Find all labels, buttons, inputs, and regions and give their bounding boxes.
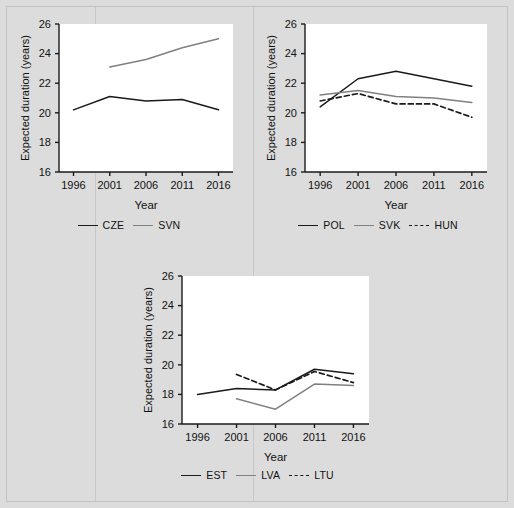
- legend-label-pol: POL: [323, 219, 345, 231]
- legend-entry-lva[interactable]: LVA: [236, 469, 280, 481]
- legend-label-hun: HUN: [434, 219, 457, 231]
- figure-canvas: 16182022242619962001200620112016YearExpe…: [0, 0, 514, 508]
- plot-area-3: 16182022242619962001200620112016YearExpe…: [135, 262, 380, 467]
- plot-background: [182, 276, 369, 424]
- legend-entry-pol[interactable]: POL: [298, 219, 345, 231]
- legend-entry-ltu[interactable]: LTU: [289, 469, 334, 481]
- legend-label-est: EST: [206, 469, 227, 481]
- legend-entry-est[interactable]: EST: [181, 469, 227, 481]
- x-tick-label: 2011: [422, 179, 446, 191]
- x-tick-label: 2011: [303, 431, 327, 443]
- y-tick-label: 20: [39, 107, 51, 119]
- y-tick-label: 26: [162, 270, 174, 282]
- legend-2: POL SVK HUN: [258, 215, 498, 235]
- legend-label-ltu: LTU: [314, 469, 334, 481]
- x-tick-label: 1996: [185, 431, 209, 443]
- legend-entry-svn[interactable]: SVN: [133, 219, 180, 231]
- y-tick-label: 24: [285, 47, 297, 59]
- plot-area-1: 16182022242619962001200620112016YearExpe…: [14, 10, 244, 215]
- x-tick-label: 2001: [98, 179, 122, 191]
- x-axis-label: Year: [264, 451, 287, 463]
- y-axis-label: Expected duration (years): [19, 35, 31, 161]
- legend-swatch-ltu: [289, 475, 309, 476]
- y-tick-label: 16: [162, 418, 174, 430]
- y-tick-label: 18: [162, 388, 174, 400]
- y-tick-label: 20: [162, 359, 174, 371]
- x-tick-label: 1996: [308, 179, 332, 191]
- legend-swatch-est: [181, 475, 201, 476]
- plot-area-2: 16182022242619962001200620112016YearExpe…: [258, 10, 498, 215]
- legend-swatch-pol: [298, 225, 318, 226]
- legend-label-svn: SVN: [158, 219, 180, 231]
- x-tick-label: 2001: [224, 431, 248, 443]
- legend-label-svk: SVK: [379, 219, 401, 231]
- legend-swatch-lva: [236, 475, 256, 476]
- x-tick-label: 2016: [341, 431, 365, 443]
- x-tick-label: 2016: [206, 179, 230, 191]
- y-tick-label: 22: [39, 77, 51, 89]
- x-axis-label: Year: [134, 199, 157, 211]
- y-tick-label: 16: [285, 166, 297, 178]
- legend-swatch-svk: [354, 225, 374, 226]
- x-tick-label: 2006: [263, 431, 287, 443]
- y-tick-label: 16: [39, 166, 51, 178]
- y-tick-label: 26: [39, 18, 51, 30]
- legend-swatch-cze: [78, 225, 98, 226]
- y-tick-label: 18: [285, 136, 297, 148]
- chart-panel-est-lva-ltu: 16182022242619962001200620112016YearExpe…: [135, 262, 380, 502]
- legend-entry-cze[interactable]: CZE: [78, 219, 125, 231]
- plot-background: [59, 24, 233, 172]
- legend-swatch-hun: [409, 225, 429, 226]
- legend-1: CZE SVN: [14, 215, 244, 235]
- x-tick-label: 1996: [61, 179, 85, 191]
- y-tick-label: 20: [285, 107, 297, 119]
- y-tick-label: 18: [39, 136, 51, 148]
- chart-panel-pol-svk-hun: 16182022242619962001200620112016YearExpe…: [258, 10, 498, 255]
- x-tick-label: 2006: [134, 179, 158, 191]
- y-axis-label: Expected duration (years): [142, 287, 154, 413]
- x-tick-label: 2006: [384, 179, 408, 191]
- legend-3: EST LVA LTU: [135, 465, 380, 485]
- x-axis-label: Year: [384, 199, 407, 211]
- x-tick-label: 2001: [346, 179, 370, 191]
- legend-entry-hun[interactable]: HUN: [409, 219, 457, 231]
- x-tick-label: 2016: [460, 179, 484, 191]
- y-tick-label: 26: [285, 18, 297, 30]
- x-tick-label: 2011: [170, 179, 194, 191]
- y-axis-label: Expected duration (years): [265, 35, 277, 161]
- y-tick-label: 22: [285, 77, 297, 89]
- y-tick-label: 24: [39, 47, 51, 59]
- y-tick-label: 22: [162, 329, 174, 341]
- legend-swatch-svn: [133, 225, 153, 226]
- chart-panel-cze-svn: 16182022242619962001200620112016YearExpe…: [14, 10, 244, 255]
- legend-label-cze: CZE: [103, 219, 125, 231]
- legend-entry-svk[interactable]: SVK: [354, 219, 401, 231]
- y-tick-label: 24: [162, 299, 174, 311]
- legend-label-lva: LVA: [261, 469, 280, 481]
